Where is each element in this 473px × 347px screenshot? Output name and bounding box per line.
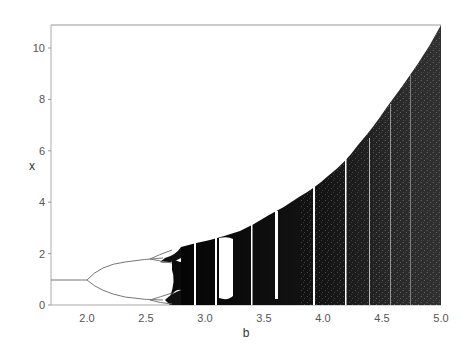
x-tick-label: 2.0 <box>79 312 94 324</box>
x-tick-label: 2.5 <box>138 312 153 324</box>
y-tick-label: 6 <box>39 145 45 157</box>
x-tick-label: 3.5 <box>256 312 271 324</box>
x-tick-label: 5.0 <box>433 312 448 324</box>
bifurcation-branches <box>51 250 172 304</box>
y-tick-label: 4 <box>39 196 45 208</box>
x-tick-label: 4.5 <box>374 312 389 324</box>
onset-chaos-lobe-upper <box>160 247 181 263</box>
x-tick-label: 4.0 <box>315 312 330 324</box>
y-ticks: 0 2 4 6 8 10 <box>33 42 51 311</box>
y-tick-label: 2 <box>39 248 45 260</box>
x-tick-label: 3.0 <box>197 312 212 324</box>
y-axis-label: x <box>29 159 35 173</box>
y-tick-label: 8 <box>39 93 45 105</box>
x-ticks: 2.0 2.5 3.0 3.5 4.0 4.5 5.0 <box>79 312 448 324</box>
y-tick-label: 10 <box>33 42 45 54</box>
bifurcation-chart: 0 2 4 6 8 10 2.0 2.5 3.0 3.5 4.0 4.5 5.0… <box>0 0 473 347</box>
y-tick-label: 0 <box>39 299 45 311</box>
x-axis-label: b <box>243 326 250 340</box>
